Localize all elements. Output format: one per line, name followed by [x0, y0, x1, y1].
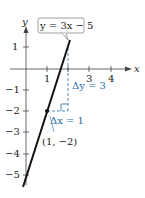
x-axis-arrow-icon — [125, 67, 132, 72]
y-tick-m5: −5 — [5, 169, 20, 180]
delta-x-label: Δx = 1 — [50, 115, 84, 126]
y-tick-m3: −3 — [5, 126, 20, 137]
y-tick-m1: −1 — [5, 84, 20, 95]
right-angle-icon — [61, 104, 68, 111]
y-axis-arrow-icon — [24, 26, 29, 33]
y-tick-m2: −2 — [5, 105, 20, 116]
y-tick-m4: −4 — [5, 148, 20, 159]
chart: x y 1 3 4 1 −1 −2 −3 −4 −5 y = 3x − 5 Δy… — [0, 0, 145, 198]
equation-label: y = 3x − 5 — [39, 20, 94, 31]
delta-y-label: Δy = 3 — [72, 80, 106, 91]
point-label: (1, −2) — [42, 136, 77, 147]
y-tick-1: 1 — [12, 41, 18, 52]
y-axis-label: y — [21, 16, 28, 27]
x-tick-4: 4 — [108, 73, 114, 84]
line-y-3x-5 — [23, 40, 70, 187]
x-tick-1: 1 — [44, 73, 50, 84]
point-1-m2 — [45, 109, 49, 113]
x-axis-label: x — [134, 63, 140, 74]
callout-pointer — [62, 33, 68, 40]
